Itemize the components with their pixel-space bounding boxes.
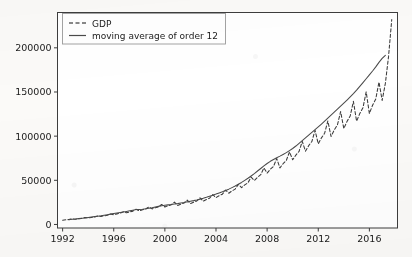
x-tick-label: 2016 — [357, 233, 381, 244]
y-tick-label: 0 — [45, 219, 51, 230]
x-tick-label: 2008 — [255, 233, 279, 244]
plot-area-background — [58, 13, 398, 229]
y-tick-label: 150000 — [15, 86, 51, 97]
x-tick-label: 2012 — [306, 233, 330, 244]
legend-label-gdp: GDP — [92, 19, 112, 29]
y-tick-label: 50000 — [21, 175, 51, 186]
chart-legend[interactable]: GDP moving average of order 12 — [63, 14, 226, 45]
x-tick-label: 2000 — [153, 233, 177, 244]
y-tick-label: 100000 — [15, 131, 51, 142]
legend-entry-moving-average[interactable]: moving average of order 12 — [69, 31, 218, 41]
y-tick-label: 200000 — [15, 42, 51, 53]
legend-label-moving-average: moving average of order 12 — [92, 31, 218, 41]
gdp-time-series-chart: 050000100000150000200000 199219962000200… — [0, 0, 412, 257]
x-tick-label: 1996 — [102, 233, 126, 244]
x-tick-label: 1992 — [51, 233, 75, 244]
x-tick-label: 2004 — [204, 233, 228, 244]
chart-figure: 050000100000150000200000 199219962000200… — [0, 0, 412, 257]
